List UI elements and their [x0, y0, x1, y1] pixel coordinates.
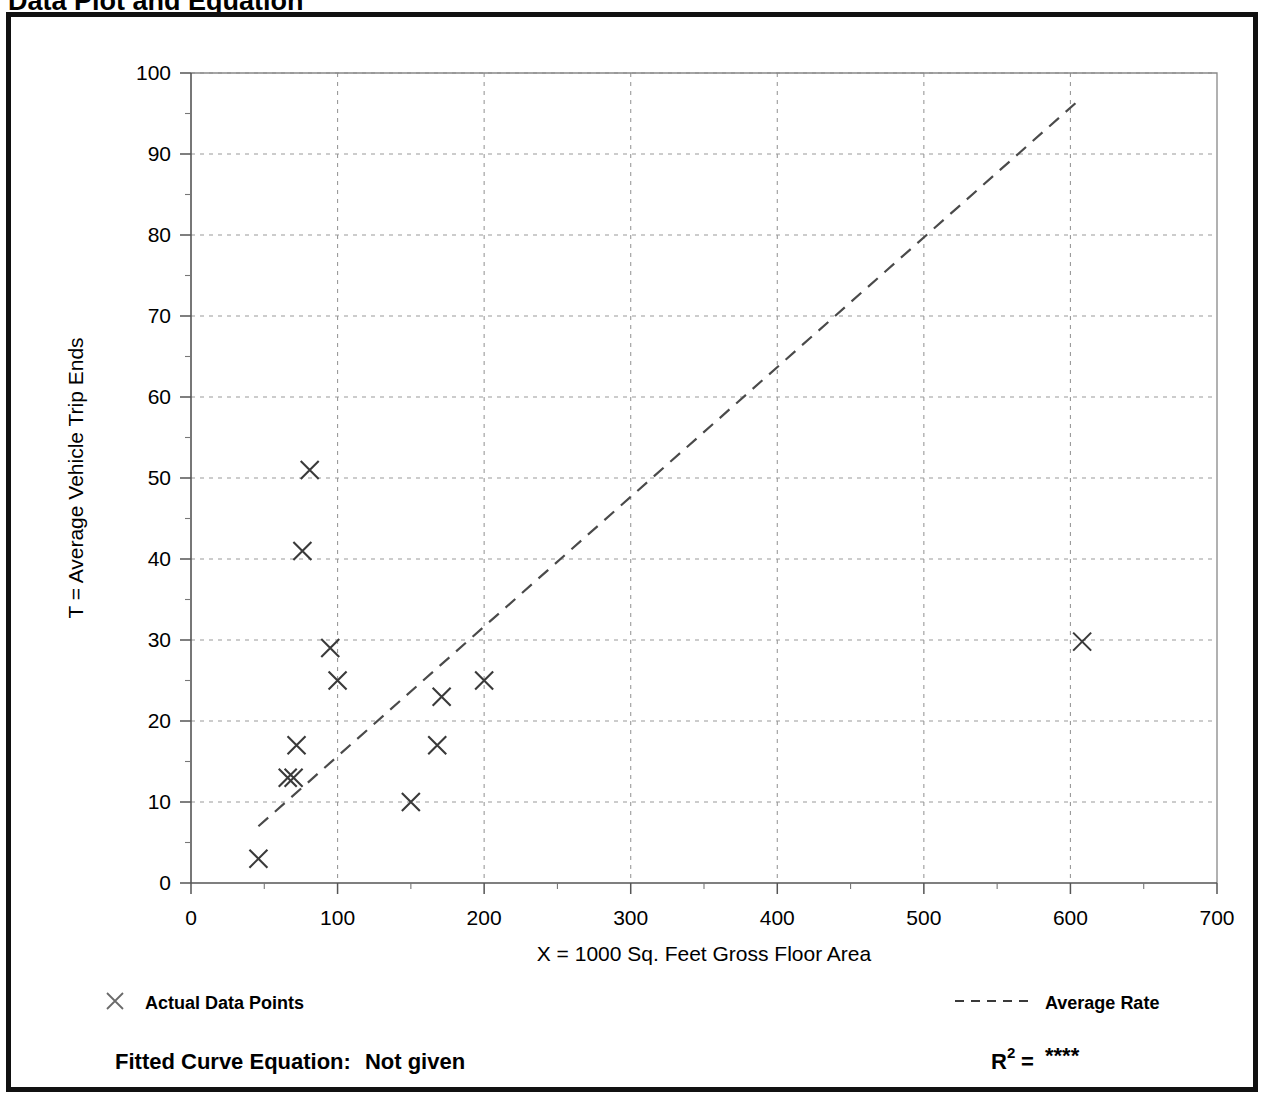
- r-squared-value: ****: [1045, 1043, 1080, 1068]
- x-tick-label: 600: [1053, 906, 1088, 929]
- y-axis-title: T = Average Vehicle Trip Ends: [64, 337, 87, 618]
- y-tick-label: 10: [148, 790, 171, 813]
- x-tick-label: 500: [906, 906, 941, 929]
- y-tick-label: 30: [148, 628, 171, 651]
- r-squared-exponent: 2: [1007, 1044, 1015, 1061]
- scatter-chart: 0102030405060708090100 01002003004005006…: [11, 17, 1263, 1097]
- x-axis-tick-labels: 0100200300400500600700: [185, 906, 1234, 929]
- x-tick-label: 700: [1199, 906, 1234, 929]
- equation-value-text: Not given: [365, 1049, 465, 1074]
- r-squared-equals: =: [1021, 1049, 1034, 1074]
- legend-average-rate: Average Rate: [955, 993, 1159, 1013]
- fitted-curve-equation-label: Fitted Curve Equation:Not given: [115, 1049, 465, 1074]
- y-tick-label: 50: [148, 466, 171, 489]
- equation-label-text: Fitted Curve Equation:: [115, 1049, 351, 1074]
- legend-data-points-label: Actual Data Points: [145, 993, 304, 1013]
- x-tick-label: 400: [760, 906, 795, 929]
- legend-data-points: Actual Data Points: [107, 993, 304, 1013]
- y-axis-ticks: [180, 73, 191, 883]
- x-axis-title: X = 1000 Sq. Feet Gross Floor Area: [537, 942, 872, 965]
- y-axis-tick-labels: 0102030405060708090100: [136, 61, 171, 894]
- figure-frame: 0102030405060708090100 01002003004005006…: [6, 12, 1258, 1092]
- x-marker-icon: [107, 993, 123, 1009]
- x-tick-label: 200: [467, 906, 502, 929]
- y-tick-label: 100: [136, 61, 171, 84]
- y-tick-label: 80: [148, 223, 171, 246]
- y-tick-label: 0: [159, 871, 171, 894]
- x-axis-ticks: [191, 883, 1217, 894]
- y-tick-label: 70: [148, 304, 171, 327]
- y-tick-label: 40: [148, 547, 171, 570]
- fitted-curve-equation: Fitted Curve Equation:Not given: [115, 1049, 465, 1074]
- x-tick-label: 100: [320, 906, 355, 929]
- r-squared-base: R: [991, 1049, 1007, 1074]
- y-tick-label: 90: [148, 142, 171, 165]
- x-tick-label: 300: [613, 906, 648, 929]
- r-squared: R 2 = ****: [991, 1043, 1080, 1074]
- x-tick-label: 0: [185, 906, 197, 929]
- y-tick-label: 20: [148, 709, 171, 732]
- y-tick-label: 60: [148, 385, 171, 408]
- legend-average-rate-label: Average Rate: [1045, 993, 1159, 1013]
